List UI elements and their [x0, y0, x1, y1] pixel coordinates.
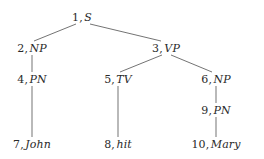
- tree-node-label: S: [84, 11, 92, 24]
- tree-edge-3-to-6: [171, 55, 212, 72]
- tree-node-2: 2,NP: [17, 43, 46, 54]
- tree-node-label: Mary: [211, 138, 241, 151]
- syntax-tree-figure: 1,S2,NP3,VP4,PN5,TV6,NP9,PN7,John8,hit10…: [0, 0, 264, 159]
- tree-node-4: 4,PN: [17, 74, 46, 85]
- tree-node-10: 10,Mary: [191, 139, 240, 150]
- tree-node-label: John: [25, 138, 51, 151]
- tree-node-label: TV: [116, 73, 131, 86]
- tree-node-8: 8,hit: [104, 139, 132, 150]
- tree-node-1: 1,S: [72, 12, 92, 23]
- tree-node-6: 6,NP: [201, 74, 230, 85]
- tree-edge-3-to-5: [120, 55, 162, 72]
- tree-node-label: NP: [29, 42, 46, 55]
- tree-node-index: 10: [191, 138, 205, 151]
- tree-edge-1-to-3: [90, 24, 161, 41]
- tree-node-3: 3,VP: [152, 43, 180, 54]
- tree-node-label: hit: [116, 138, 131, 151]
- tree-node-label: PN: [213, 104, 230, 117]
- tree-node-label: VP: [164, 42, 180, 55]
- tree-node-label: PN: [29, 73, 46, 86]
- tree-node-label: NP: [213, 73, 230, 86]
- tree-node-7: 7,John: [13, 139, 51, 150]
- tree-edge-1-to-2: [34, 24, 76, 41]
- tree-node-9: 9,PN: [201, 105, 230, 116]
- tree-node-5: 5,TV: [104, 74, 132, 85]
